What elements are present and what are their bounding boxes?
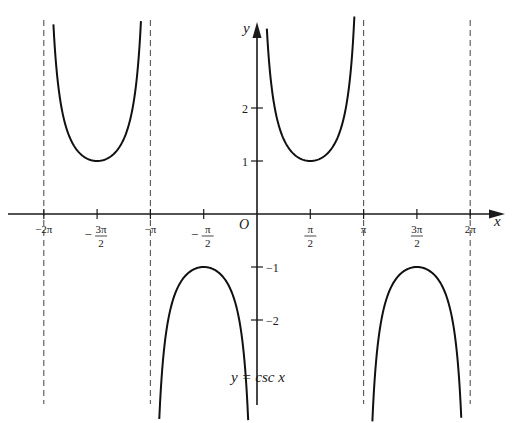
svg-text:−: − [191, 227, 198, 242]
csc-curve-branch [267, 16, 355, 161]
y-axis-label: y [241, 20, 250, 36]
x-tick-label: −2π [35, 223, 53, 235]
csc-curve-branch [53, 21, 141, 161]
svg-text:π: π [205, 223, 211, 235]
svg-text:3π: 3π [96, 223, 108, 235]
x-tick-label: 3π2 [411, 223, 423, 249]
csc-curve-branch [159, 267, 248, 420]
csc-curve-branch [372, 267, 461, 421]
svg-text:−: − [84, 227, 91, 242]
y-tick-label: −2 [266, 314, 279, 328]
y-tick-label: −1 [266, 261, 279, 275]
svg-text:π: π [361, 223, 367, 235]
y-tick-label: 1 [242, 155, 248, 169]
x-tick-label: π [361, 223, 367, 235]
x-tick-label: −π [145, 223, 157, 235]
svg-text:−π: −π [145, 223, 157, 235]
csc-graph: −2π−3π2−π−π2π2π3π22π 21−1−2 y x O y = cs… [0, 0, 521, 423]
svg-text:π: π [308, 223, 314, 235]
x-tick-label: −π2 [191, 223, 214, 249]
svg-text:3π: 3π [411, 223, 423, 235]
svg-text:2: 2 [414, 237, 420, 249]
x-tick-label: 2π [465, 223, 477, 235]
y-tick-label: 2 [242, 102, 248, 116]
svg-text:2: 2 [98, 237, 104, 249]
origin-label: O [239, 217, 249, 232]
y-axis-arrow-icon [253, 22, 262, 38]
function-annotation: y = csc x [229, 369, 285, 385]
x-tick-label: −3π2 [84, 223, 107, 249]
svg-text:−2π: −2π [35, 223, 53, 235]
x-axis-label: x [493, 213, 501, 229]
svg-text:2: 2 [205, 237, 211, 249]
x-tick-label: π2 [304, 223, 316, 249]
x-ticks: −2π−3π2−π−π2π2π3π22π [35, 209, 476, 249]
svg-text:2: 2 [308, 237, 314, 249]
svg-text:2π: 2π [465, 223, 477, 235]
axes [8, 22, 505, 405]
